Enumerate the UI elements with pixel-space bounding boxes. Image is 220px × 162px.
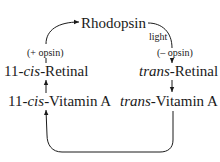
cis-vitamin-a-prefix: 11- [8, 93, 27, 109]
edge-label-minus-opsin: (– opsin) [157, 48, 193, 58]
trans-retinal-italic: trans [139, 63, 170, 79]
node-rhodopsin: Rhodopsin [81, 16, 146, 31]
arrow-trans-vitamin-a-to-cis-vitamin-a [46, 110, 173, 152]
edge-label-light: light [149, 32, 167, 42]
edge-label-plus-opsin: (+ opsin) [27, 48, 63, 58]
cis-vitamin-a-suffix: -Vitamin A [44, 93, 111, 109]
trans-vitamin-a-italic: trans [120, 93, 151, 109]
trans-vitamin-a-suffix: -Vitamin A [151, 93, 218, 109]
trans-retinal-suffix: -Retinal [170, 63, 218, 79]
cis-vitamin-a-italic: cis [27, 93, 44, 109]
node-11-cis-retinal: 11-cis-Retinal [4, 64, 88, 79]
node-trans-retinal: trans-Retinal [139, 64, 218, 79]
cis-retinal-prefix: 11- [4, 63, 23, 79]
arrow-cis-retinal-to-rhodopsin [46, 22, 79, 44]
cis-retinal-suffix: -Retinal [40, 63, 88, 79]
visual-cycle-diagram: Rhodopsin light (+ opsin) (– opsin) 11-c… [0, 0, 220, 162]
node-11-cis-vitamin-a: 11-cis-Vitamin A [8, 94, 111, 109]
cis-retinal-italic: cis [23, 63, 40, 79]
rhodopsin-label: Rhodopsin [81, 15, 146, 31]
node-trans-vitamin-a: trans-Vitamin A [120, 94, 218, 109]
